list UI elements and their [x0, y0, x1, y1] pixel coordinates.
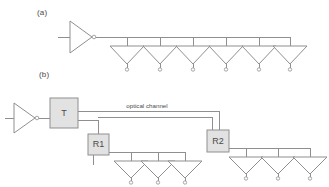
panel-a-tap-2 — [143, 37, 177, 71]
panel-b-amplifier-output-node — [35, 116, 39, 120]
optical-channel-label: optical channel — [126, 102, 167, 109]
transmitter-label: T — [61, 108, 67, 118]
panel-a-tap-4 — [209, 37, 243, 71]
panel-b-r1-tap-3 — [168, 152, 202, 184]
panel-b-r2-tap-3-terminal-node — [308, 177, 311, 180]
panel-b-amplifier-icon — [14, 103, 35, 133]
panel-b-r2-tap-1-receiver-icon — [229, 157, 263, 174]
receiver-r2-label: R2 — [212, 136, 224, 146]
panel-a-tap-3-receiver-icon — [176, 46, 210, 64]
panel-b-r1-tap-3-receiver-icon — [168, 161, 202, 178]
panel-a-tap-2-receiver-icon — [143, 46, 177, 64]
panel-a-group — [58, 21, 307, 71]
panel-a-amplifier-icon — [70, 21, 92, 53]
panel-a-tap-3 — [176, 37, 210, 71]
panel-a-tap-4-terminal-node — [224, 68, 227, 71]
panel-a-amplifier-output-node — [92, 35, 96, 39]
panel-a-tap-1-terminal-node — [125, 68, 128, 71]
panel-b-r1-tap-2-terminal-node — [156, 181, 159, 184]
optical-channel-lower-line — [98, 117, 212, 130]
panel-b-r2-tap-3 — [293, 148, 327, 180]
panel-a-tap-1-receiver-icon — [110, 46, 144, 64]
diagram-svg: T optical channel R1 — [0, 0, 329, 187]
panel-a-tap-3-terminal-node — [191, 68, 194, 71]
panel-b-r1-tap-1-terminal-node — [129, 181, 132, 184]
panel-a-tap-5-terminal-node — [257, 68, 260, 71]
panel-b-group: T optical channel R1 — [5, 98, 327, 184]
panel-a-tap-6-receiver-icon — [273, 46, 307, 64]
panel-a-tap-5-receiver-icon — [242, 46, 276, 64]
panel-b-r1-tap-3-terminal-node — [183, 181, 186, 184]
panel-b-r2-tap-2 — [261, 148, 295, 180]
panel-b-r1-tap-2 — [141, 152, 175, 184]
panel-a-tap-2-terminal-node — [158, 68, 161, 71]
figure-canvas: (a) (b) — [0, 0, 329, 187]
panel-b-r2-tap-1 — [229, 148, 263, 180]
receiver-r1-label: R1 — [93, 139, 105, 149]
panel-a-tap-4-receiver-icon — [209, 46, 243, 64]
panel-b-r2-tap-2-receiver-icon — [261, 157, 295, 174]
panel-a-tap-5 — [242, 37, 276, 71]
optical-channel-upper-line — [78, 111, 219, 130]
optical-channel-to-r1-line — [78, 120, 98, 134]
panel-b-r2-tap-1-terminal-node — [244, 177, 247, 180]
panel-a-tap-6 — [273, 37, 307, 71]
panel-b-r2-tap-3-receiver-icon — [293, 157, 327, 174]
panel-b-r2-tap-2-terminal-node — [276, 177, 279, 180]
panel-b-r1-tap-1 — [114, 152, 148, 184]
panel-a-tap-1 — [110, 37, 144, 71]
panel-a-tap-6-terminal-node — [288, 68, 291, 71]
